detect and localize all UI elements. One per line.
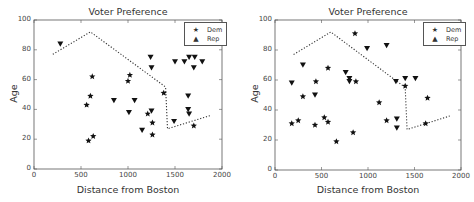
chart-title: Voter Preference [34,6,222,17]
x-tick-label: 2000 [210,171,234,179]
legend-label: Rep [207,35,219,43]
rep-triangle-marker [126,110,132,115]
star-marker-icon: ★ [428,26,442,34]
y-tick-label: 80 [249,45,272,53]
x-tick-label: 0 [22,171,46,179]
y-tick-label: 80 [8,45,31,53]
dem-star-marker [312,122,318,128]
dem-star-marker [125,78,131,84]
x-tick-label: 1500 [403,172,427,180]
rep-triangle-marker [192,55,198,60]
dem-star-marker [321,114,327,120]
rep-triangle-marker [346,79,352,84]
dem-star-marker [313,78,319,84]
rep-triangle-marker [57,41,63,46]
y-tick-label: 0 [8,164,31,172]
legend-item-dem: ★ Dem [428,25,461,34]
legend-item-rep: ▲ Rep [189,34,222,43]
dem-star-marker [89,73,95,79]
legend-label: Dem [446,26,461,34]
chart-title: Voter Preference [275,6,461,17]
dem-star-marker [352,30,358,36]
legend-label: Rep [446,35,458,43]
x-axis-label: Distance from Boston [275,184,461,195]
triangle-marker-icon: ▲ [428,35,442,43]
dem-star-marker [149,120,155,126]
dem-star-marker [149,131,155,137]
x-tick-label: 2000 [449,172,473,180]
rep-triangle-marker [412,76,418,81]
dem-star-marker [353,78,359,84]
rep-triangle-marker [364,46,370,51]
dem-star-marker [300,93,306,99]
y-tick-label: 100 [8,15,31,23]
dem-star-marker [191,122,197,128]
x-tick-label: 500 [69,171,93,179]
rep-triangle-marker [139,128,145,133]
left-scatter-chart: Voter Preference Distance from Boston Ag… [0,0,237,202]
rep-triangle-marker [191,65,197,70]
dem-star-marker [383,117,389,123]
dem-star-marker [289,120,295,126]
rep-triangle-marker [181,59,187,64]
y-tick-label: 60 [249,75,272,83]
rep-triangle-marker [394,126,400,131]
legend: ★ Dem ▲ Rep [184,22,227,46]
dem-star-marker [85,137,91,143]
y-tick-label: 20 [249,135,272,143]
y-tick-label: 40 [8,104,31,112]
x-tick-label: 1000 [116,171,140,179]
y-axis-label: Age [249,79,260,109]
x-tick-label: 0 [263,172,287,180]
rep-triangle-marker [289,81,295,86]
dem-star-marker [376,99,382,105]
legend: ★ Dem ▲ Rep [423,22,466,46]
legend-item-rep: ▲ Rep [428,34,461,43]
dem-star-marker [87,93,93,99]
y-tick-label: 100 [249,15,272,23]
rep-triangle-marker [185,94,191,99]
legend-item-dem: ★ Dem [189,25,222,34]
rep-triangle-marker [186,55,192,60]
rep-triangle-marker [394,117,400,122]
rep-triangle-marker [186,111,192,116]
right-scatter-chart: Voter Preference Distance from Boston Ag… [237,0,474,202]
dem-star-marker [424,95,430,101]
rep-triangle-marker [172,59,178,64]
y-tick-label: 0 [249,165,272,173]
decision-boundary-line [53,32,211,129]
dem-star-marker [402,83,408,89]
rep-triangle-marker [199,59,205,64]
dem-star-marker [350,129,356,135]
y-tick-label: 40 [249,105,272,113]
x-tick-label: 1500 [163,171,187,179]
y-tick-label: 20 [8,134,31,142]
dem-star-marker [90,133,96,139]
dem-star-marker [84,102,90,108]
rep-triangle-marker [402,76,408,81]
rep-triangle-marker [343,70,349,75]
x-tick-label: 500 [310,172,334,180]
dem-star-marker [423,120,429,126]
triangle-marker-icon: ▲ [189,35,203,43]
rep-triangle-marker [171,119,177,124]
dem-star-marker [325,65,331,71]
rep-triangle-marker [384,43,390,48]
rep-triangle-marker [132,98,138,103]
dem-star-marker [127,72,133,78]
dem-star-marker [145,111,151,117]
rep-triangle-marker [111,98,117,103]
rep-triangle-marker [148,55,154,60]
star-marker-icon: ★ [189,26,203,34]
legend-label: Dem [207,26,222,34]
dem-star-marker [333,138,339,144]
rep-triangle-marker [300,63,306,68]
y-tick-label: 60 [8,75,31,83]
x-axis-label: Distance from Boston [34,184,222,195]
rep-triangle-marker [149,65,155,70]
rep-triangle-marker [312,93,318,98]
rep-triangle-marker [185,107,191,112]
x-tick-label: 1000 [356,172,380,180]
dem-star-marker [295,117,301,123]
